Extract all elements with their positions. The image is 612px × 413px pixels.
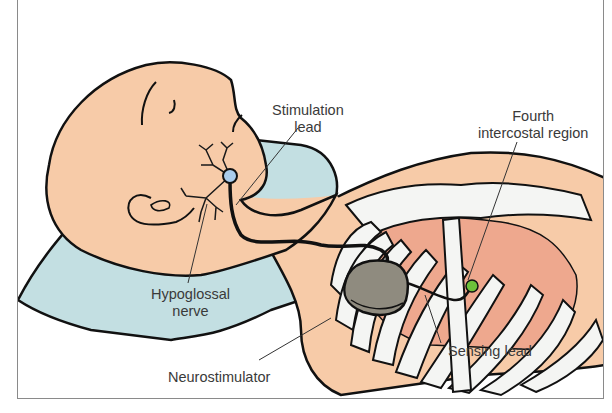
label-line: intercostal region — [478, 125, 588, 142]
label-line: nerve — [151, 303, 230, 320]
label-hypoglossal-nerve: Hypoglossal nerve — [151, 286, 230, 320]
sensing-electrode — [466, 280, 478, 292]
label-line: lead — [272, 119, 344, 136]
label-stimulation-lead: Stimulation lead — [272, 102, 344, 136]
diagram-frame: Stimulation lead Fourth intercostal regi… — [17, 0, 604, 399]
label-neurostimulator: Neurostimulator — [168, 369, 270, 386]
label-fourth-intercostal: Fourth intercostal region — [478, 108, 588, 142]
stimulation-electrode — [223, 169, 237, 183]
neurostimulator-device — [344, 261, 408, 315]
label-line: Hypoglossal — [151, 286, 230, 303]
anatomy-illustration — [18, 0, 604, 399]
label-line: Fourth — [478, 108, 588, 125]
label-sensing-lead: Sensing lead — [448, 343, 532, 360]
label-line: Stimulation — [272, 102, 344, 119]
